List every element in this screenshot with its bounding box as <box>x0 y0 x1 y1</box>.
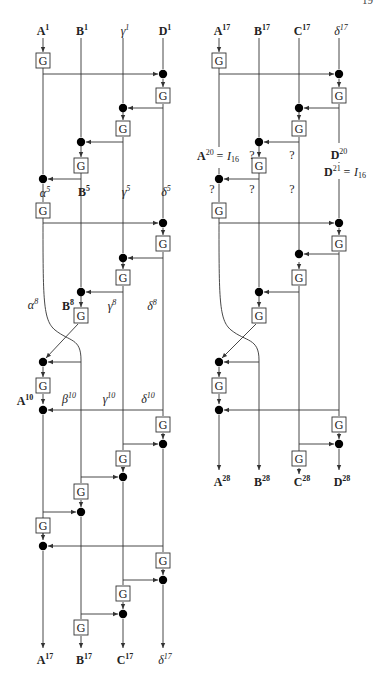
svg-text:γ1: γ1 <box>121 23 130 38</box>
svg-text:A10: A10 <box>17 393 34 408</box>
svg-text:β10: β10 <box>61 391 76 406</box>
svg-text:δ5: δ5 <box>161 184 171 199</box>
svg-text:A1: A1 <box>37 23 50 38</box>
svg-text:α8: α8 <box>28 297 38 312</box>
svg-text:G: G <box>255 310 264 323</box>
svg-text:B5: B5 <box>78 184 90 199</box>
unknown-mark: ? <box>289 182 294 196</box>
svg-text:G: G <box>215 380 224 393</box>
svg-text:G: G <box>39 380 48 393</box>
left-diagram: G G G G G G G G G G G G G G G G A1 B1 γ1… <box>17 23 173 667</box>
left-round5-labels: α5 B5 γ5 δ5 <box>40 184 171 200</box>
unknown-mark: ? <box>249 182 254 196</box>
svg-text:G: G <box>295 272 304 285</box>
svg-text:G: G <box>335 90 344 103</box>
svg-text:A17: A17 <box>214 23 231 38</box>
svg-text:C28: C28 <box>294 474 311 489</box>
svg-text:G: G <box>295 123 304 136</box>
svg-text:B28: B28 <box>254 474 270 489</box>
g-function-box: G G G G G G G G G G G <box>212 53 346 466</box>
svg-text:G: G <box>215 55 224 68</box>
svg-text:G: G <box>159 419 168 432</box>
svg-text:G: G <box>77 160 86 173</box>
svg-text:G: G <box>119 453 128 466</box>
svg-text:C17: C17 <box>294 23 311 38</box>
left-output-labels: A17 B17 C17 δ17 <box>37 652 173 667</box>
svg-text:G: G <box>159 238 168 251</box>
svg-text:δ8: δ8 <box>147 298 157 313</box>
svg-text:G: G <box>119 588 128 601</box>
right-diagram: G G G G G G G G G G G A17 B17 C17 δ17 A2… <box>190 23 378 489</box>
svg-text:γ8: γ8 <box>108 298 117 313</box>
svg-text:B17: B17 <box>254 23 270 38</box>
left-round8-labels: α8 B8 γ8 δ8 <box>28 297 157 313</box>
svg-text:G: G <box>335 238 344 251</box>
svg-text:A17: A17 <box>37 652 54 667</box>
right-annotations: A20= I16 ? ? D20 ? ? ? D21= I16 <box>190 146 378 196</box>
unknown-mark: ? <box>209 182 214 196</box>
unknown-mark: ? <box>289 148 294 162</box>
svg-text:B17: B17 <box>76 652 92 667</box>
xor-node <box>215 70 343 448</box>
svg-text:G: G <box>255 160 264 173</box>
svg-text:G: G <box>295 453 304 466</box>
svg-text:C17: C17 <box>117 652 134 667</box>
left-round10-labels: A10 β10 γ10 δ10 <box>17 391 155 408</box>
svg-text:G: G <box>77 622 86 635</box>
svg-text:B8: B8 <box>62 298 74 313</box>
right-output-labels: A28 B28 C28 D28 <box>214 474 351 489</box>
g-function-box: G G G G G G G G G G G G G G G G <box>36 53 170 635</box>
svg-text:G: G <box>77 486 86 499</box>
svg-text:G: G <box>77 310 86 323</box>
svg-text:B1: B1 <box>76 23 88 38</box>
svg-text:A28: A28 <box>214 474 231 489</box>
svg-text:G: G <box>335 419 344 432</box>
xor-node <box>39 70 167 618</box>
svg-text:G: G <box>215 205 224 218</box>
svg-text:γ5: γ5 <box>122 184 131 199</box>
right-input-labels: A17 B17 C17 δ17 <box>214 23 349 38</box>
svg-text:G: G <box>119 123 128 136</box>
svg-text:D28: D28 <box>334 474 351 489</box>
svg-text:δ17: δ17 <box>158 652 173 667</box>
svg-text:α5: α5 <box>40 185 50 200</box>
svg-text:γ10: γ10 <box>103 391 116 406</box>
svg-text:G: G <box>39 205 48 218</box>
svg-text:G: G <box>39 55 48 68</box>
left-input-labels: A1 B1 γ1 D1 <box>37 23 172 38</box>
svg-text:G: G <box>39 520 48 533</box>
feistel-diagram: G G G G G G G G G G G G G G G G A1 B1 γ1… <box>0 0 381 687</box>
svg-text:G: G <box>119 272 128 285</box>
unknown-mark: ? <box>249 148 254 162</box>
svg-text:G: G <box>159 555 168 568</box>
svg-text:G: G <box>159 90 168 103</box>
svg-text:δ10: δ10 <box>141 391 155 406</box>
svg-text:δ17: δ17 <box>334 23 349 38</box>
svg-text:D1: D1 <box>159 23 172 38</box>
